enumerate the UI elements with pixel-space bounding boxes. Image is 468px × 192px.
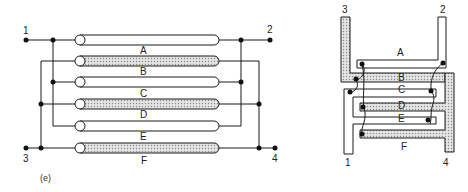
terminal-1-label: 1: [23, 25, 29, 36]
strip-a-2: [357, 17, 446, 68]
conductor-label-d: D: [140, 109, 147, 120]
left-schematic: [26, 35, 275, 153]
right-label-e: E: [398, 113, 405, 124]
right-label-a: A: [397, 47, 404, 58]
strip-3-b: [341, 17, 445, 82]
right-label-d: D: [398, 100, 405, 111]
right-terminal-3-label: 3: [342, 4, 348, 15]
figure-caption: (e): [40, 173, 51, 183]
conductor-label-e: E: [140, 131, 147, 142]
tube-6: [75, 143, 219, 153]
right-terminal-1-label: 1: [345, 157, 351, 168]
tube-2: [75, 56, 219, 66]
strip-1-ce: [344, 89, 436, 154]
right-terminal-4-label: 4: [443, 157, 449, 168]
tube-4: [75, 99, 219, 109]
wire-left-bus-1: [26, 40, 75, 126]
wire-right-bus-2: [219, 40, 270, 126]
right-label-b: B: [398, 72, 405, 83]
conductor-label-a: A: [140, 45, 147, 56]
junction-dots: [24, 38, 278, 151]
coaxial-wiring-diagram: 1 2 3 4 A B C D E F 3 2 1 4 A B C D E F: [0, 0, 468, 192]
right-label-c: C: [398, 84, 405, 95]
wire-right-bus-4: [219, 61, 275, 148]
terminal-4-label: 4: [272, 153, 278, 164]
right-terminal-2-label: 2: [440, 4, 446, 15]
right-label-f: F: [401, 141, 407, 152]
terminal-2-label: 2: [267, 24, 273, 35]
wire-left-bus-3: [26, 61, 75, 148]
tube-5: [75, 121, 219, 131]
conductor-label-b: B: [140, 66, 147, 77]
conductor-label-c: C: [140, 88, 147, 99]
conductor-label-f: F: [141, 155, 147, 166]
tube-3: [75, 77, 219, 87]
tube-1: [75, 35, 219, 45]
right-junction-dots: [348, 61, 446, 137]
terminal-3-label: 3: [23, 153, 29, 164]
